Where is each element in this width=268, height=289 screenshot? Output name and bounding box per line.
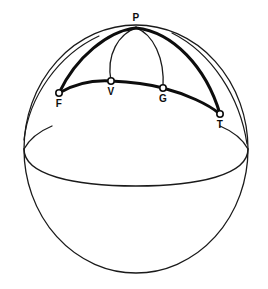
vertex-marker-G (160, 85, 166, 91)
vertex-marker-F (56, 90, 62, 96)
vertex-marker-V (108, 78, 114, 84)
sphere-diagram-root: P F V G T (0, 0, 268, 289)
vertex-label-P: P (133, 13, 140, 23)
vertex-label-T: T (217, 120, 223, 130)
vertex-label-G: G (159, 94, 167, 104)
sphere-outline (24, 25, 248, 273)
vertex-label-V: V (108, 87, 115, 97)
sphere-diagram-svg (0, 0, 268, 289)
vertex-marker-T (217, 111, 223, 117)
vertex-label-F: F (56, 99, 62, 109)
